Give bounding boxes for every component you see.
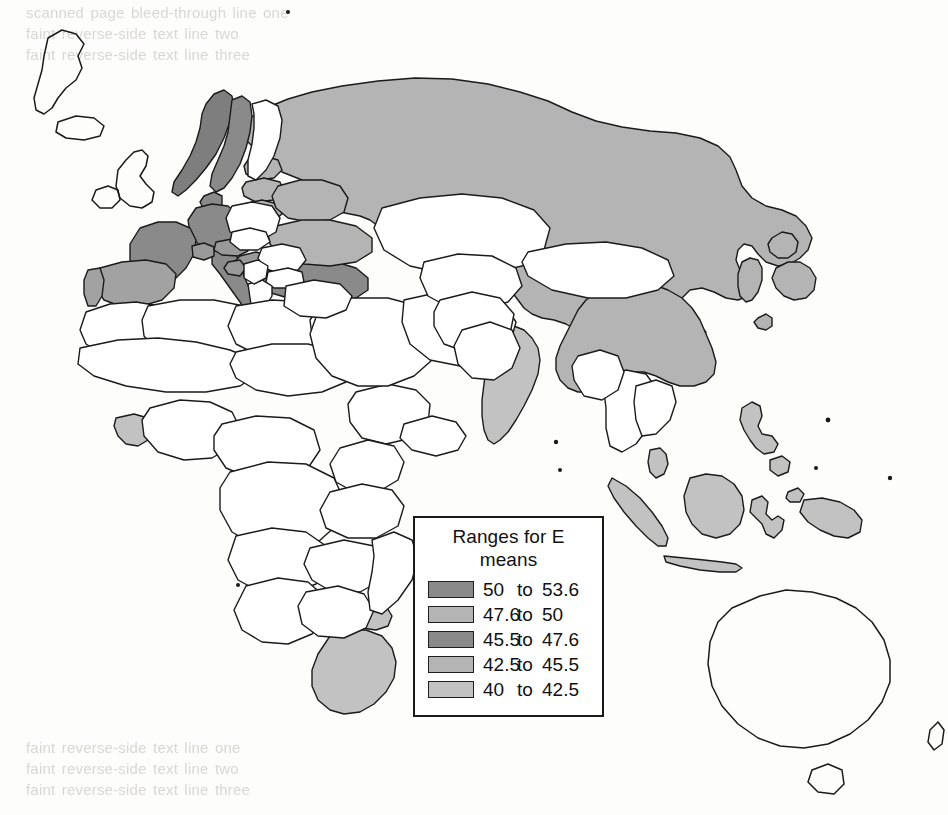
legend-swatch: [428, 581, 474, 598]
legend-swatch: [428, 656, 474, 673]
legend-range-to: to: [517, 579, 542, 601]
legend-title: Ranges for E means: [415, 518, 602, 571]
legend-range-high: 45.5: [542, 654, 579, 676]
legend-swatch: [428, 631, 474, 648]
legend-range-to: to: [517, 679, 542, 701]
legend-item: 47.6 to 50: [415, 602, 602, 627]
legend-rows: 50 to 53.6 47.6 to 50 45.5 to 47.6 42.5 …: [415, 577, 602, 702]
map-legend: Ranges for E means 50 to 53.6 47.6 to 50…: [413, 516, 604, 717]
legend-title-line2: means: [415, 548, 602, 571]
legend-range-to: to: [517, 629, 542, 651]
legend-swatch: [428, 681, 474, 698]
legend-range-to: to: [517, 604, 542, 626]
legend-range-high: 42.5: [542, 679, 579, 701]
legend-range-high: 47.6: [542, 629, 579, 651]
legend-range-low: 50: [483, 579, 517, 601]
legend-title-line1: Ranges for E: [415, 525, 602, 548]
legend-item: 50 to 53.6: [415, 577, 602, 602]
legend-item: 40 to 42.5: [415, 677, 602, 702]
legend-swatch: [428, 606, 474, 623]
figure-container: scanned page bleed-through line one fain…: [0, 0, 948, 815]
legend-range-low: 45.5: [483, 629, 517, 651]
legend-range-low: 40: [483, 679, 517, 701]
legend-range-low: 42.5: [483, 654, 517, 676]
legend-range-to: to: [517, 654, 542, 676]
legend-item: 42.5 to 45.5: [415, 652, 602, 677]
legend-range-low: 47.6: [483, 604, 517, 626]
legend-range-high: 53.6: [542, 579, 579, 601]
legend-item: 45.5 to 47.6: [415, 627, 602, 652]
legend-range-high: 50: [542, 604, 563, 626]
